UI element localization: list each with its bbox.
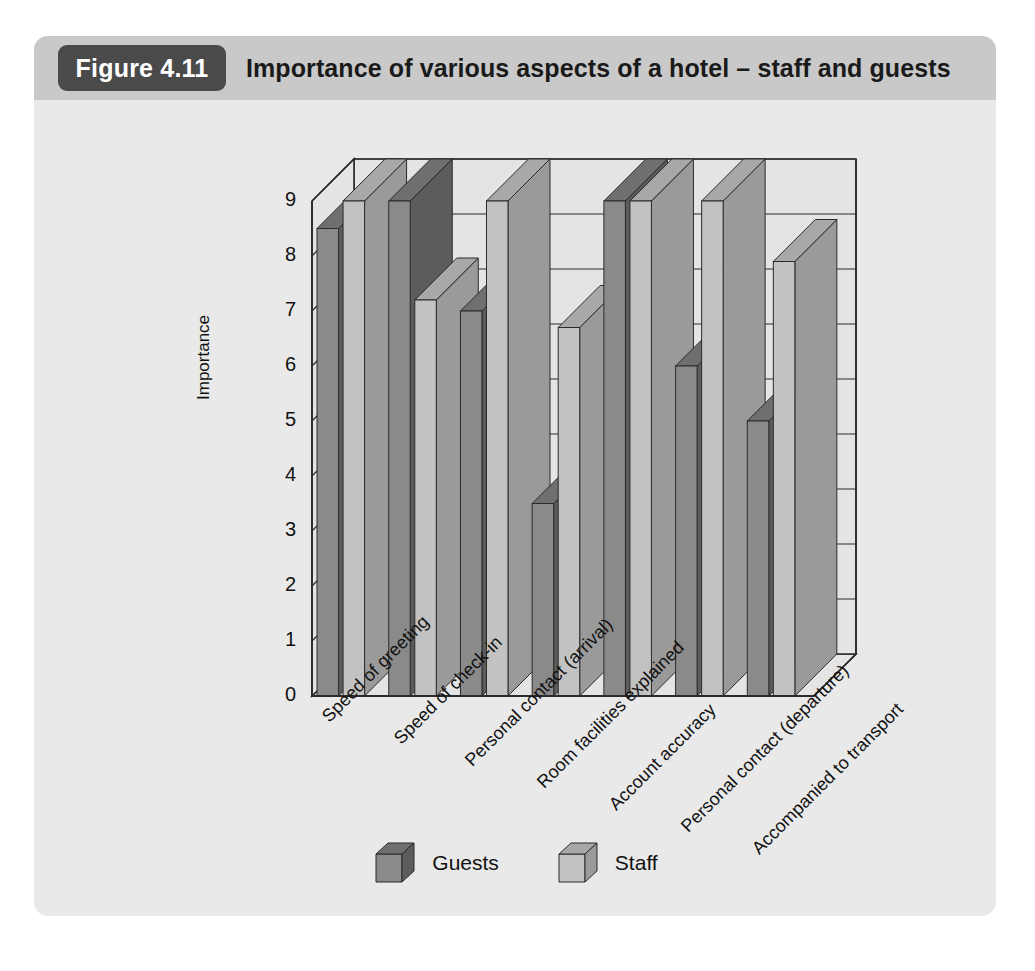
legend-cube-icon bbox=[555, 840, 601, 886]
y-tick-label: 9 bbox=[270, 188, 296, 211]
bar-chart-svg bbox=[34, 100, 996, 916]
legend-entry[interactable]: Guests bbox=[372, 840, 499, 886]
figure-header-bar: Figure 4.11 Importance of various aspect… bbox=[34, 36, 996, 100]
legend-label: Staff bbox=[615, 851, 658, 875]
y-tick-label: 4 bbox=[270, 463, 296, 486]
chart-area: Importance 0123456789 Speed of greetingS… bbox=[34, 100, 996, 916]
bar-front-face bbox=[317, 229, 339, 697]
legend-entry[interactable]: Staff bbox=[555, 840, 658, 886]
chart-legend: GuestsStaff bbox=[34, 840, 996, 886]
bar-front-face bbox=[460, 311, 482, 696]
bar-front-face bbox=[630, 201, 652, 696]
y-tick-label: 7 bbox=[270, 298, 296, 321]
y-tick-label: 1 bbox=[270, 628, 296, 651]
bar-front-face bbox=[486, 201, 508, 696]
y-tick-label: 3 bbox=[270, 518, 296, 541]
bar-front-face bbox=[747, 421, 769, 696]
y-tick-label: 8 bbox=[270, 243, 296, 266]
y-tick-label: 0 bbox=[270, 683, 296, 706]
bar-front-face bbox=[773, 262, 795, 697]
y-tick-label: 2 bbox=[270, 573, 296, 596]
legend-cube-icon bbox=[372, 840, 418, 886]
bar-front-face bbox=[343, 201, 365, 696]
y-axis-title: Importance bbox=[194, 315, 214, 400]
y-tick-label: 6 bbox=[270, 353, 296, 376]
figure-panel: Figure 4.11 Importance of various aspect… bbox=[34, 36, 996, 916]
y-tick-label: 5 bbox=[270, 408, 296, 431]
figure-number-badge: Figure 4.11 bbox=[58, 45, 226, 91]
bar-side-face bbox=[795, 220, 837, 697]
legend-label: Guests bbox=[432, 851, 499, 875]
bar-front-face bbox=[702, 201, 724, 696]
figure-title: Importance of various aspects of a hotel… bbox=[246, 36, 951, 100]
bar-staff bbox=[773, 220, 837, 697]
